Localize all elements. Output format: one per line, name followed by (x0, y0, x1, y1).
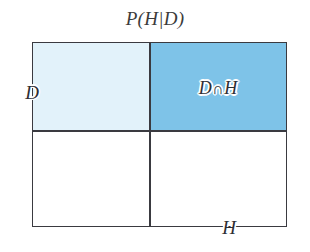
figure-title: P(H|D) (0, 8, 310, 30)
label-d-part: D (199, 78, 212, 98)
quadrant-neither (32, 130, 149, 227)
divider-vertical-line (149, 42, 151, 227)
label-d-intersect-h: D∩H (199, 79, 238, 97)
intersection-symbol-icon: ∩ (212, 80, 225, 97)
label-d: D (25, 83, 39, 102)
divider-horizontal-line (32, 130, 287, 132)
label-h: H (222, 218, 236, 237)
label-h-part: H (224, 78, 237, 98)
probability-venn-figure: P(H|D) D D∩H H (0, 0, 310, 252)
partition-diagram (32, 42, 287, 227)
quadrant-h-only (149, 130, 287, 227)
quadrant-d-only (32, 42, 149, 130)
